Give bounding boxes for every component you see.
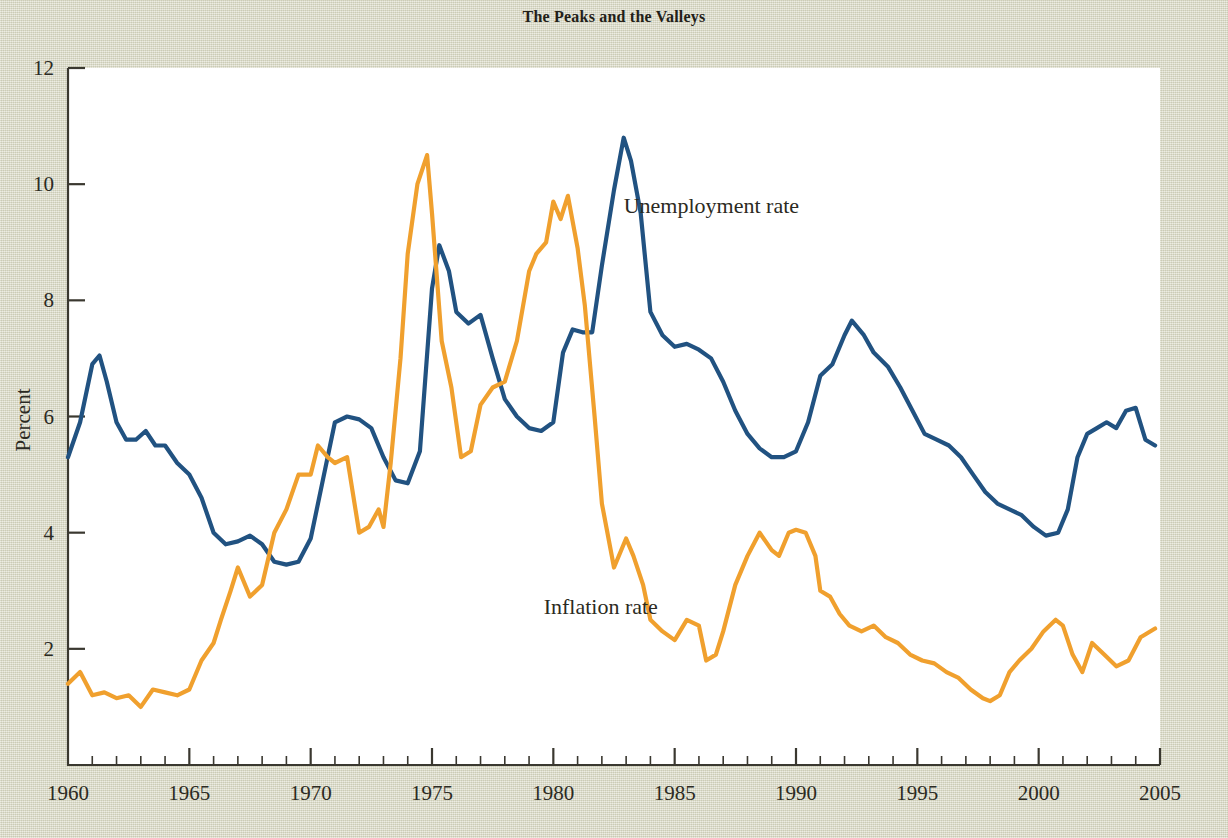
y-tick-label: 4 — [44, 521, 55, 545]
x-tick-label: 1995 — [896, 781, 938, 805]
y-tick-label: 10 — [33, 172, 54, 196]
line-chart: 1960196519701975198019851990199520002005… — [0, 0, 1228, 838]
x-axis-tick-labels: 1960196519701975198019851990199520002005 — [47, 781, 1181, 805]
x-tick-label: 1985 — [654, 781, 696, 805]
y-tick-label: 2 — [44, 637, 55, 661]
page-title: The Peaks and the Valleys — [0, 8, 1228, 26]
x-tick-label: 1990 — [775, 781, 817, 805]
chart-canvas: 1960196519701975198019851990199520002005… — [0, 0, 1228, 838]
x-tick-label: 2000 — [1018, 781, 1060, 805]
plot-background — [68, 68, 1160, 765]
y-tick-label: 8 — [44, 288, 55, 312]
y-axis-title: Percent — [11, 388, 35, 451]
annotation-unemployment-rate: Unemployment rate — [624, 193, 799, 218]
y-tick-label: 6 — [44, 405, 55, 429]
y-axis-tick-labels: 24681012 — [33, 56, 55, 661]
y-tick-label: 12 — [33, 56, 54, 80]
x-tick-label: 1960 — [47, 781, 89, 805]
annotation-inflation-rate: Inflation rate — [544, 594, 658, 619]
x-tick-label: 1970 — [290, 781, 332, 805]
x-tick-label: 1975 — [411, 781, 453, 805]
x-tick-label: 1965 — [168, 781, 210, 805]
x-tick-label: 2005 — [1139, 781, 1181, 805]
x-tick-label: 1980 — [532, 781, 574, 805]
